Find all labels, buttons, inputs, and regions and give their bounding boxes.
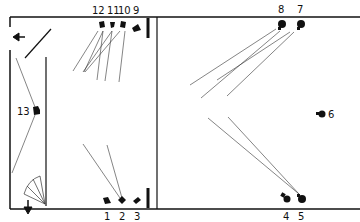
label-10: 10 bbox=[118, 5, 131, 16]
door-swing-line bbox=[25, 29, 51, 58]
label-6: 6 bbox=[328, 109, 334, 120]
label-8: 8 bbox=[278, 4, 284, 15]
light-10-icon bbox=[120, 21, 126, 28]
label-5: 5 bbox=[298, 211, 304, 222]
bottom-baffle-bar bbox=[147, 188, 150, 208]
exit-left-arrow bbox=[13, 33, 25, 41]
lights bbox=[33, 20, 326, 204]
exit-down-arrow bbox=[24, 200, 32, 214]
label-9: 9 bbox=[133, 5, 139, 16]
label-2: 2 bbox=[119, 211, 125, 222]
label-4: 4 bbox=[283, 211, 289, 222]
fan-light-spread bbox=[24, 176, 45, 204]
light-4-icon bbox=[284, 196, 291, 203]
label-3: 3 bbox=[134, 211, 140, 222]
light-9-icon bbox=[132, 24, 141, 32]
light-labels: 12 11 10 9 8 7 6 13 1 2 3 4 5 bbox=[17, 4, 334, 222]
light-beams bbox=[12, 29, 299, 198]
light-13-icon bbox=[33, 106, 40, 115]
light-7-icon bbox=[297, 20, 305, 28]
stage-lighting-diagram: 12 11 10 9 8 7 6 13 1 2 3 4 5 bbox=[0, 0, 360, 222]
light-12-icon bbox=[99, 21, 105, 28]
light-11-icon bbox=[110, 22, 115, 28]
light-8-icon bbox=[278, 20, 286, 28]
label-7: 7 bbox=[297, 4, 303, 15]
label-1: 1 bbox=[104, 211, 110, 222]
label-13: 13 bbox=[17, 106, 30, 117]
label-12: 12 bbox=[92, 5, 105, 16]
top-baffle-bar bbox=[147, 18, 150, 38]
room-walls bbox=[10, 17, 360, 209]
light-1-icon bbox=[103, 197, 111, 204]
light-3-icon bbox=[133, 197, 141, 204]
